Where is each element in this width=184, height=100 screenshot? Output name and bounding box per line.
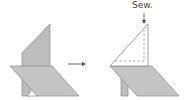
folded-white-triangle [110,24,148,66]
arrow-down-icon [142,13,146,24]
front-parallelogram [10,66,79,96]
front-parallelogram [110,66,179,96]
step-after-figure [110,13,179,96]
back-flap [22,24,50,67]
arrow-right-icon [68,62,86,66]
step-before-figure [10,24,79,96]
sewing-diagram [0,0,184,100]
sew-label: Sew. [132,0,153,10]
